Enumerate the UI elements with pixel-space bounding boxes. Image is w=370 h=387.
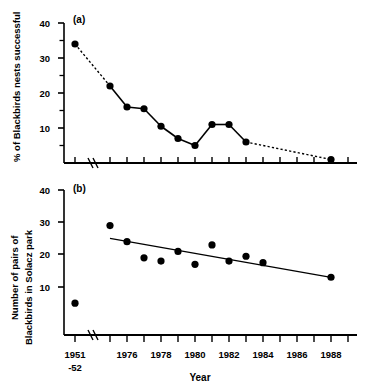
panel-a-data-line bbox=[75, 44, 331, 160]
panel-a-point-6 bbox=[191, 142, 198, 149]
panel-a-tag: (a) bbox=[73, 14, 85, 25]
panel-b-point-8 bbox=[225, 258, 232, 265]
panel-a-data-points bbox=[71, 40, 334, 163]
panel-a-ytick-20: 20 bbox=[39, 88, 50, 99]
figure-svg: % of Blackbirds nests successful (a) 40 … bbox=[0, 0, 370, 387]
panel-a-ytick-30: 30 bbox=[39, 53, 50, 64]
panel-a-segment-8 bbox=[229, 125, 246, 143]
x-axis-title: Year bbox=[189, 372, 210, 383]
panel-a: % of Blackbirds nests successful (a) 40 … bbox=[11, 12, 357, 168]
panel-a-segment-6 bbox=[195, 125, 212, 146]
panel-a-ytick-10: 10 bbox=[39, 123, 50, 134]
xtick-label-1988: 1988 bbox=[320, 349, 341, 360]
xtick-label-1978: 1978 bbox=[150, 349, 171, 360]
panel-a-y-axis-label: % of Blackbirds nests successful bbox=[11, 12, 22, 162]
panel-b-y-axis-label-line2: Blackbirds in Solacz park bbox=[23, 229, 34, 345]
panel-b-point-2 bbox=[123, 238, 130, 245]
xtick-label-1976: 1976 bbox=[116, 349, 137, 360]
xtick-label-1951: 1951 bbox=[64, 349, 86, 360]
panel-b-ytick-20: 20 bbox=[39, 249, 50, 260]
xtick-label-1984: 1984 bbox=[252, 349, 274, 360]
panel-b-point-4 bbox=[157, 258, 164, 265]
panel-b-tag: (b) bbox=[73, 183, 86, 194]
figure-container: % of Blackbirds nests successful (a) 40 … bbox=[0, 0, 370, 387]
panel-a-segment-1 bbox=[110, 86, 127, 107]
panel-b-point-3 bbox=[140, 254, 147, 261]
panel-b-point-9 bbox=[242, 253, 249, 260]
panel-b-ytick-40: 40 bbox=[39, 185, 50, 196]
panel-b-x-ticks bbox=[75, 335, 348, 342]
panel-a-segment-3 bbox=[144, 109, 161, 127]
panel-a-point-2 bbox=[123, 103, 130, 110]
panel-b-ytick-10: 10 bbox=[39, 282, 50, 293]
panel-a-point-3 bbox=[140, 105, 147, 112]
panel-a-point-1 bbox=[106, 82, 113, 89]
panel-a-point-4 bbox=[157, 123, 164, 130]
panel-a-point-5 bbox=[174, 135, 181, 142]
xtick-label-1980: 1980 bbox=[184, 349, 205, 360]
panel-a-segment-0 bbox=[75, 44, 110, 86]
panel-a-segment-9 bbox=[246, 142, 331, 160]
panel-b-point-11 bbox=[327, 274, 334, 281]
panel-b-point-5 bbox=[174, 248, 181, 255]
panel-a-point-10 bbox=[327, 156, 334, 163]
panel-b-point-10 bbox=[259, 259, 266, 266]
panel-a-ytick-40: 40 bbox=[39, 18, 50, 29]
panel-a-point-7 bbox=[208, 121, 215, 128]
xtick-label-1986: 1986 bbox=[286, 349, 307, 360]
panel-b-y-axis-label-line1: Number of pairs of bbox=[9, 235, 20, 320]
xtick-label-52: -52 bbox=[68, 362, 82, 373]
panel-b-point-1 bbox=[106, 222, 113, 229]
panel-b-data-points bbox=[71, 222, 334, 307]
panel-b-ytick-30: 30 bbox=[39, 217, 50, 228]
panel-b: Number of pairs of Blackbirds in Solacz … bbox=[9, 183, 357, 383]
panel-b-point-6 bbox=[191, 261, 198, 268]
panel-b-point-7 bbox=[208, 241, 215, 248]
panel-a-point-0 bbox=[71, 40, 78, 47]
panel-b-point-0 bbox=[71, 300, 78, 307]
panel-a-point-9 bbox=[242, 138, 249, 145]
panel-a-point-8 bbox=[225, 121, 232, 128]
xtick-label-1982: 1982 bbox=[218, 349, 239, 360]
